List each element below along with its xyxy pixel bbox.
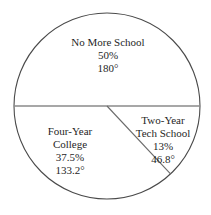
pie-label-two-year-tech-name-2: Tech School — [124, 127, 202, 140]
pie-label-no-more-school-name: No More School — [36, 36, 180, 49]
pie-chart: No More School 50% 180° Four-Year Colleg… — [0, 0, 211, 215]
pie-label-two-year-tech-degrees: 46.8° — [124, 153, 202, 166]
pie-chart-graphic — [0, 0, 211, 215]
pie-label-four-year-college-name-2: College — [24, 138, 116, 151]
pie-label-two-year-tech-percent: 13% — [124, 140, 202, 153]
pie-label-two-year-tech: Two-Year Tech School 13% 46.8° — [124, 114, 202, 166]
pie-label-four-year-college-name-1: Four-Year — [24, 125, 116, 138]
pie-label-two-year-tech-name-1: Two-Year — [124, 114, 202, 127]
pie-label-four-year-college-degrees: 133.2° — [24, 164, 116, 177]
pie-label-no-more-school-percent: 50% — [36, 49, 180, 62]
pie-label-four-year-college: Four-Year College 37.5% 133.2° — [24, 125, 116, 177]
pie-label-no-more-school-degrees: 180° — [36, 62, 180, 75]
pie-label-no-more-school: No More School 50% 180° — [36, 36, 180, 75]
pie-label-four-year-college-percent: 37.5% — [24, 151, 116, 164]
